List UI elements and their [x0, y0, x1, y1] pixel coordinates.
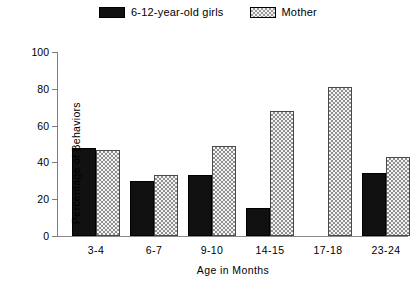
- bar-group-23-24: [362, 52, 410, 236]
- x-tick-label-9-10: 9-10: [201, 244, 224, 256]
- legend-entry-girls: 6-12-year-old girls: [99, 6, 223, 18]
- legend-label-girls: 6-12-year-old girls: [131, 6, 223, 18]
- x-tick-label-3-4: 3-4: [88, 244, 104, 256]
- bars-container: [58, 52, 408, 236]
- chart-legend: 6-12-year-old girls Mother: [0, 6, 416, 18]
- bar-group-17-18: [304, 52, 352, 236]
- bar-girls-14-15: [246, 208, 270, 236]
- legend-swatch-hatched-icon: [250, 7, 276, 18]
- legend-swatch-solid-icon: [99, 7, 125, 18]
- x-axis-line: [57, 236, 408, 237]
- x-axis-title: Age in Months: [58, 264, 408, 276]
- y-axis-title: Percentage of Behaviors: [70, 104, 82, 224]
- bar-girls-6-7: [130, 181, 154, 236]
- legend-label-mother: Mother: [282, 6, 317, 18]
- bar-chart-figure: 6-12-year-old girls Mother 0 20 40 60 8: [0, 0, 416, 286]
- bar-girls-9-10: [188, 175, 212, 236]
- y-tick-label-60: 60: [37, 120, 49, 132]
- y-tick-label-20: 20: [37, 193, 49, 205]
- bar-mother-9-10: [212, 146, 236, 236]
- y-tick-label-100: 100: [31, 46, 49, 58]
- y-tick-mark: [52, 236, 58, 237]
- bar-mother-14-15: [270, 111, 294, 236]
- bar-girls-23-24: [362, 173, 386, 236]
- x-tick-label-17-18: 17-18: [314, 244, 343, 256]
- y-tick-label-0: 0: [43, 230, 49, 242]
- bar-mother-6-7: [154, 175, 178, 236]
- bar-mother-17-18: [328, 87, 352, 236]
- x-tick-label-14-15: 14-15: [256, 244, 285, 256]
- legend-entry-mother: Mother: [250, 6, 317, 18]
- bar-mother-23-24: [386, 157, 410, 236]
- bar-group-14-15: [246, 52, 294, 236]
- y-tick-label-80: 80: [37, 83, 49, 95]
- x-tick-label-6-7: 6-7: [146, 244, 162, 256]
- x-tick-label-23-24: 23-24: [372, 244, 401, 256]
- bar-group-6-7: [130, 52, 178, 236]
- y-tick-label-40: 40: [37, 156, 49, 168]
- plot-area: 0 20 40 60 80 100: [58, 52, 408, 236]
- bar-mother-3-4: [96, 150, 120, 237]
- bar-group-9-10: [188, 52, 236, 236]
